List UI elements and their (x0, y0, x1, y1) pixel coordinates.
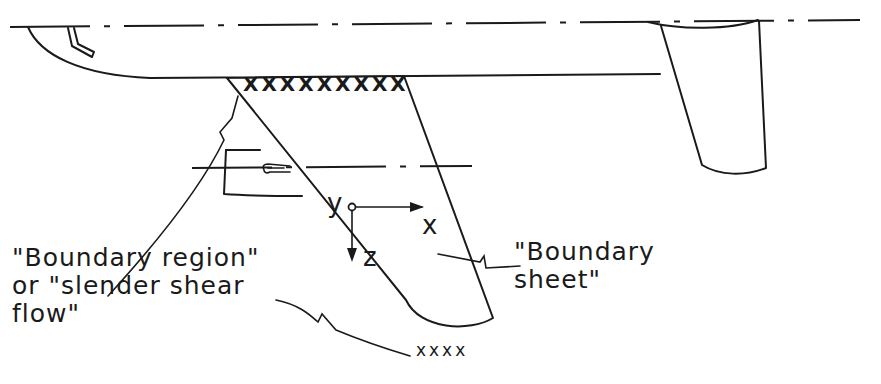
diagram-canvas: XXXXXXXXX xxxx y x z "Boundary region" o… (0, 0, 881, 384)
z-axis-label: z (363, 244, 377, 270)
boundary-sheet-label: "Boundary sheet" (514, 238, 655, 294)
wing-root-boundary-marks: XXXXXXXXX (243, 72, 409, 96)
leader-boundary-region-tip (276, 300, 410, 356)
wing-tip-boundary-marks: xxxx (416, 340, 468, 360)
pitot-probe (68, 28, 94, 57)
wing-planform (227, 76, 493, 326)
x-axis-label: x (422, 212, 437, 238)
y-axis-label: y (327, 190, 342, 216)
engine-centerline (192, 166, 472, 168)
z-axis-arrow-icon (347, 248, 357, 262)
tailplane-outline (661, 21, 766, 174)
origin-marker (349, 204, 356, 211)
boundary-region-label: "Boundary region" or "slender shear flow… (12, 244, 259, 328)
fuselage-outline (28, 27, 660, 78)
leader-boundary-sheet (438, 254, 520, 268)
